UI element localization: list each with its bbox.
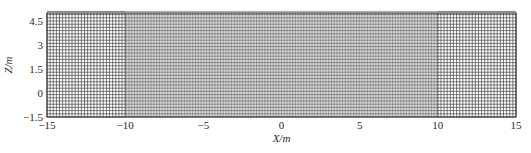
y-tick-label: 0 xyxy=(38,87,44,99)
x-tick-label: −5 xyxy=(197,119,209,131)
x-axis-ticks: −15−10−5051015 xyxy=(38,119,522,131)
mesh-chart: −15−10−5051015 −1.501.534.5 X/m Z/m xyxy=(0,0,531,153)
y-tick-label: −1.5 xyxy=(23,111,43,123)
y-tick-label: 4.5 xyxy=(29,15,43,27)
x-tick-label: 10 xyxy=(432,119,444,131)
x-tick-label: −10 xyxy=(117,119,135,131)
x-tick-label: 0 xyxy=(279,119,285,131)
x-tick-label: 15 xyxy=(511,119,523,131)
x-axis-label: X/m xyxy=(272,132,291,144)
y-tick-label: 3 xyxy=(38,39,44,51)
y-tick-label: 1.5 xyxy=(29,63,43,75)
y-axis-label: Z/m xyxy=(2,56,14,73)
y-axis-ticks: −1.501.534.5 xyxy=(23,15,43,123)
x-tick-label: 5 xyxy=(357,119,363,131)
mesh-grid xyxy=(47,11,516,117)
